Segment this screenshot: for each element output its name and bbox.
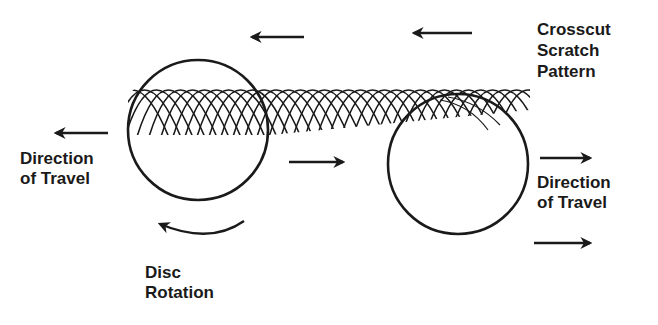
direction-of-travel-left-label: Direction of Travel [20, 149, 94, 189]
direction-right-line2: of Travel [537, 193, 611, 213]
direction-left-line2: of Travel [20, 169, 94, 189]
disc-rotation-line2: Rotation [145, 283, 214, 303]
crosscut-scratch-pattern-label: Crosscut Scratch Pattern [537, 19, 611, 82]
direction-left-line1: Direction [20, 149, 94, 169]
disc-rotation-label: Disc Rotation [145, 263, 214, 303]
crosscut-pattern [100, 90, 566, 140]
rotation-arrow-icon [160, 221, 244, 234]
crosscut-label-line3: Pattern [537, 61, 611, 82]
direction-right-line1: Direction [537, 173, 611, 193]
crosscut-label-line1: Crosscut [537, 19, 611, 40]
crosscut-label-line2: Scratch [537, 40, 611, 61]
disc-rotation-line1: Disc [145, 263, 214, 283]
direction-of-travel-right-label: Direction of Travel [537, 173, 611, 213]
